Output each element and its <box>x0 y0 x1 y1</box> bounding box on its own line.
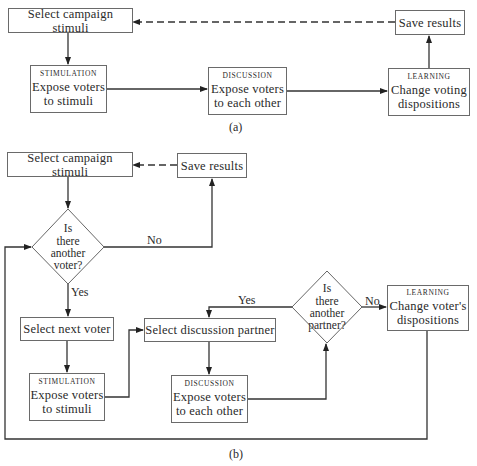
node-label: Expose voters <box>173 390 246 404</box>
node-label: Expose voters <box>211 82 284 96</box>
node-label: to each other <box>176 404 243 418</box>
node-caption: STIMULATION <box>38 378 95 386</box>
a-select-campaign-stimuli-box: Select campaign stimuli <box>8 8 133 33</box>
node-caption: LEARNING <box>407 73 450 81</box>
diagram-b-caption: (b) <box>229 447 243 462</box>
partner-no-label: No <box>365 294 380 309</box>
b-learning-box: LEARNING Change voter's dispositions <box>387 285 469 331</box>
b-stimulation-box: STIMULATION Expose voters to stimuli <box>29 373 105 421</box>
node-label: to stimuli <box>42 402 92 416</box>
node-caption: STIMULATION <box>40 70 97 78</box>
decision-line: Is <box>323 282 331 294</box>
partner-yes-label: Yes <box>238 293 255 308</box>
b-save-results-box: Save results <box>177 153 247 178</box>
node-label: Select discussion partner <box>145 323 274 337</box>
voter-yes-label: Yes <box>71 285 88 300</box>
b-select-discussion-partner-box: Select discussion partner <box>144 318 276 342</box>
edge-b-partner-yes-to-select-partner <box>209 307 292 317</box>
node-caption: LEARNING <box>406 289 449 297</box>
node-label: Save results <box>399 16 461 30</box>
node-label: dispositions <box>397 313 459 327</box>
node-caption: DISCUSSION <box>184 380 234 388</box>
decision-line: there <box>316 295 339 307</box>
a-learning-box: LEARNING Change voting dispositions <box>388 68 470 116</box>
diagram-a-caption: (a) <box>229 120 242 135</box>
node-label: Select next voter <box>23 322 110 336</box>
node-label: Change voting <box>391 83 467 97</box>
node-label: Change voter's <box>390 299 467 313</box>
node-label: to each other <box>214 96 281 110</box>
node-label: Save results <box>181 159 243 173</box>
decision-line: voter? <box>54 259 83 271</box>
decision-line: Is <box>64 222 72 234</box>
node-caption: DISCUSSION <box>222 72 272 80</box>
a-discussion-box: DISCUSSION Expose voters to each other <box>208 67 287 115</box>
a-save-results-box: Save results <box>395 10 465 35</box>
node-label: dispositions <box>398 97 460 111</box>
decision-line: another <box>51 247 85 259</box>
b-select-next-voter-box: Select next voter <box>20 317 114 341</box>
node-label: Expose voters <box>32 80 105 94</box>
voter-decision-text: Is there another voter? <box>38 218 98 276</box>
voter-no-label: No <box>147 233 162 248</box>
decision-line: partner? <box>308 319 346 331</box>
decision-line: there <box>57 235 80 247</box>
b-discussion-box: DISCUSSION Expose voters to each other <box>171 375 248 423</box>
partner-decision-text: Is there another partner? <box>296 278 358 336</box>
decision-line: another <box>310 307 344 319</box>
node-label: Select campaign stimuli <box>9 7 132 35</box>
node-label: Expose voters <box>30 388 103 402</box>
a-stimulation-box: STIMULATION Expose voters to stimuli <box>30 65 107 113</box>
edge-b-discussion-to-partner-decision <box>248 344 326 399</box>
node-label: to stimuli <box>44 94 94 108</box>
node-label: Select campaign stimuli <box>8 151 132 179</box>
b-select-campaign-stimuli-box: Select campaign stimuli <box>7 152 133 177</box>
